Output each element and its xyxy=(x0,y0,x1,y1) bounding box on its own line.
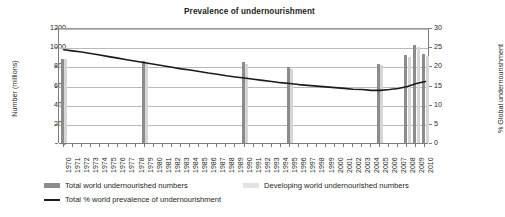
x-tick-label: 1975 xyxy=(110,157,117,173)
legend-item-total: Total world undernourished numbers xyxy=(44,181,188,190)
x-tick-mark xyxy=(99,144,100,147)
x-tick-mark xyxy=(198,144,199,147)
x-tick-label: 1983 xyxy=(183,157,190,173)
x-tick-label: 1990 xyxy=(246,157,253,173)
x-tick-label: 2010 xyxy=(427,157,434,173)
x-tick-mark xyxy=(90,144,91,147)
x-tick-label: 1998 xyxy=(318,157,325,173)
x-tick-mark xyxy=(135,144,136,147)
x-tick-label: 1999 xyxy=(328,157,335,173)
x-tick-mark xyxy=(144,144,145,147)
x-tick-label: 1995 xyxy=(291,157,298,173)
x-tick-label: 1991 xyxy=(255,157,262,173)
x-tick-mark xyxy=(81,144,82,147)
x-tick-mark xyxy=(388,144,389,147)
y-tick-label-right: 15 xyxy=(434,82,464,90)
x-tick-label: 1986 xyxy=(210,157,217,173)
x-tick-mark xyxy=(343,144,344,147)
x-tick-label: 1981 xyxy=(165,157,172,173)
x-tick-label: 2007 xyxy=(400,157,407,173)
x-tick-mark xyxy=(334,144,335,147)
x-tick-mark xyxy=(406,144,407,147)
y-tick-label-right: 0 xyxy=(434,139,464,147)
legend-item-developing: Developing world undernourished numbers xyxy=(243,181,409,190)
x-tick-label: 1982 xyxy=(174,157,181,173)
chart-legend: Total world undernourished numbers Devel… xyxy=(0,181,499,211)
x-tick-mark xyxy=(307,144,308,147)
x-tick-mark xyxy=(117,144,118,147)
x-tick-label: 1988 xyxy=(228,157,235,173)
x-tick-label: 1989 xyxy=(237,157,244,173)
x-tick-mark xyxy=(361,144,362,147)
x-tick-label: 1971 xyxy=(74,157,81,173)
x-tick-label: 2006 xyxy=(391,157,398,173)
x-tick-mark xyxy=(234,144,235,147)
x-tick-mark xyxy=(171,144,172,147)
x-tick-mark xyxy=(379,144,380,147)
x-tick-mark xyxy=(153,144,154,147)
x-tick-mark xyxy=(108,144,109,147)
x-tick-label: 2002 xyxy=(355,157,362,173)
x-tick-label: 2005 xyxy=(382,157,389,173)
x-tick-label: 1972 xyxy=(83,157,90,173)
y-axis-label-right: % Global undernourishment xyxy=(496,30,505,148)
x-tick-label: 2000 xyxy=(337,157,344,173)
x-tick-mark xyxy=(162,144,163,147)
x-tick-mark xyxy=(415,144,416,147)
legend-item-percentage: Total % world prevalence of undernourish… xyxy=(44,195,221,204)
x-tick-mark xyxy=(262,144,263,147)
x-tick-label: 1980 xyxy=(156,157,163,173)
x-tick-mark xyxy=(316,144,317,147)
x-tick-label: 1984 xyxy=(192,157,199,173)
x-tick-mark xyxy=(126,144,127,147)
x-tick-label: 1974 xyxy=(101,157,108,173)
bar-swatch-light-icon xyxy=(243,183,259,188)
x-tick-mark xyxy=(271,144,272,147)
x-tick-mark xyxy=(225,144,226,147)
x-tick-mark xyxy=(289,144,290,147)
x-tick-label: 1978 xyxy=(138,157,145,173)
legend-label: Developing world undernourished numbers xyxy=(264,181,409,190)
y-tick-label-right: 30 xyxy=(434,24,464,32)
x-tick-label: 1976 xyxy=(119,157,126,173)
x-tick-label: 1993 xyxy=(273,157,280,173)
chart-title: Prevalence of undernourishment xyxy=(0,7,499,16)
x-tick-mark xyxy=(189,144,190,147)
legend-label: Total % world prevalence of undernourish… xyxy=(65,195,221,204)
x-tick-mark xyxy=(216,144,217,147)
x-tick-mark xyxy=(298,144,299,147)
x-tick-mark xyxy=(280,144,281,147)
x-tick-label: 2008 xyxy=(409,157,416,173)
x-tick-label: 2009 xyxy=(418,157,425,173)
x-tick-mark xyxy=(180,144,181,147)
x-tick-label: 2004 xyxy=(373,157,380,173)
x-tick-label: 1987 xyxy=(219,157,226,173)
x-tick-label: 1997 xyxy=(309,157,316,173)
y-tick-label-right: 10 xyxy=(434,101,464,109)
x-tick-label: 1985 xyxy=(201,157,208,173)
x-tick-label: 2001 xyxy=(346,157,353,173)
plot-area xyxy=(58,28,429,143)
x-tick-mark xyxy=(244,144,245,147)
x-tick-mark xyxy=(424,144,425,147)
x-tick-label: 1970 xyxy=(65,157,72,173)
x-tick-label: 1996 xyxy=(300,157,307,173)
x-tick-mark xyxy=(253,144,254,147)
x-axis-labels: 1970197119721973197419751976197719781979… xyxy=(58,144,429,176)
x-tick-mark xyxy=(397,144,398,147)
x-tick-mark xyxy=(352,144,353,147)
bar-swatch-dark-icon xyxy=(44,183,60,188)
x-tick-mark xyxy=(325,144,326,147)
x-tick-mark xyxy=(72,144,73,147)
x-tick-mark xyxy=(370,144,371,147)
y-tick-label-right: 25 xyxy=(434,43,464,51)
x-tick-mark xyxy=(207,144,208,147)
x-tick-label: 1977 xyxy=(128,157,135,173)
line-swatch-icon xyxy=(44,199,60,201)
legend-label: Total world undernourished numbers xyxy=(65,181,188,190)
y-axis-label-left: Number (millions) xyxy=(10,34,19,144)
y-tick-label-right: 20 xyxy=(434,62,464,70)
line-series xyxy=(59,29,430,144)
x-tick-label: 1992 xyxy=(264,157,271,173)
